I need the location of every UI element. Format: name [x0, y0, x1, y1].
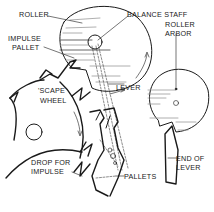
label-end-of-lever-1: END OF: [176, 154, 205, 163]
arbor-pivot: [174, 101, 179, 106]
label-scape-wheel-2: WHEEL: [40, 96, 67, 105]
label-lever: LEVER: [116, 83, 141, 92]
balance-staff-circle: [88, 35, 102, 49]
label-impulse-pallet-1: IMPULSE: [8, 34, 41, 43]
scape-rotation-arrow-icon: [74, 112, 80, 134]
label-roller-arbor-1: ROLLER: [165, 20, 195, 29]
roller-disc: [60, 6, 152, 91]
roller-shading: [60, 18, 130, 82]
label-balance-staff: BALANCE STAFF: [127, 10, 188, 19]
lever-escapement-diagram: ROLLER IMPULSE PALLET BALANCE STAFF ROLL…: [0, 0, 214, 212]
label-scape-wheel-1: 'SCAPE: [38, 86, 65, 95]
label-roller: ROLLER: [19, 10, 49, 19]
label-drop-for-impulse-2: IMPULSE: [31, 167, 64, 176]
lever-body: [90, 108, 124, 196]
label-end-of-lever-2: LEVER: [176, 163, 201, 172]
scape-wheel-hole: [26, 124, 42, 140]
label-impulse-pallet-2: PALLET: [12, 43, 40, 52]
label-pallets: PALLETS: [124, 172, 156, 181]
roller-arbor-disc: [148, 69, 209, 132]
pallet-jewel-1: [108, 148, 112, 152]
label-drop-for-impulse-1: DROP FOR: [31, 158, 70, 167]
label-roller-arbor-2: ARBOR: [165, 29, 192, 38]
